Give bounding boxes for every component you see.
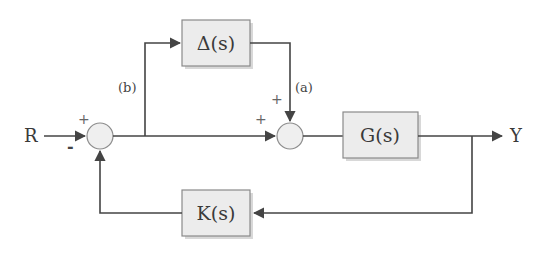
sum1-plus-sign: + bbox=[78, 111, 90, 127]
branch-b-wire bbox=[145, 43, 180, 136]
sum2-left-plus-sign: + bbox=[255, 111, 267, 127]
plant-block-label: G(s) bbox=[360, 124, 400, 146]
sum2-top-plus-sign: + bbox=[271, 91, 283, 107]
summing-junction-2 bbox=[277, 123, 303, 149]
delta-block-label: Δ(s) bbox=[197, 32, 235, 54]
sum1-minus-sign: - bbox=[67, 137, 74, 156]
delta-block: Δ(s) bbox=[182, 20, 253, 69]
feedback-wire-to-summer bbox=[100, 151, 182, 213]
signal-label-b: (b) bbox=[118, 80, 136, 95]
input-label-r: R bbox=[24, 125, 38, 146]
signal-label-a: (a) bbox=[295, 80, 313, 95]
controller-block-label: K(s) bbox=[197, 202, 236, 224]
summing-junction-1 bbox=[87, 123, 113, 149]
plant-block: G(s) bbox=[343, 112, 421, 161]
controller-block: K(s) bbox=[182, 190, 253, 239]
branch-a-wire bbox=[250, 43, 290, 121]
block-diagram: R + - (b) Δ(s) (a) + + G(s) Y K(s) bbox=[0, 0, 546, 254]
output-label-y: Y bbox=[509, 125, 523, 146]
